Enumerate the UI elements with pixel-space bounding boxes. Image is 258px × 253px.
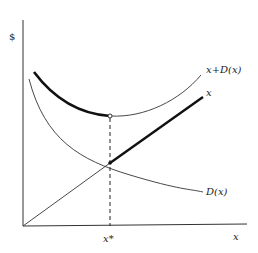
minimum-open-point [108, 114, 112, 118]
linear-curve-thick [110, 97, 203, 163]
intersection-filled-point [108, 161, 112, 165]
total-curve-label: x+D(x) [206, 64, 242, 75]
decreasing-curve-label: D(x) [205, 186, 228, 197]
total-curve-thin [110, 75, 201, 116]
linear-curve-label: x [206, 87, 212, 98]
linear-curve-thin [23, 163, 110, 226]
x-star-label: x* [103, 233, 114, 244]
x-axis-label: x [233, 231, 239, 242]
total-curve-thick [34, 72, 110, 116]
x-axis [23, 224, 247, 226]
cost-diagram: $ x x* x+D(x) x D(x) [0, 0, 258, 253]
y-axis-label: $ [9, 31, 15, 42]
